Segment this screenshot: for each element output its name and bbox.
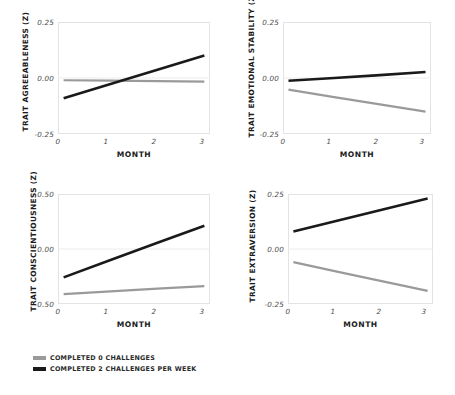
- y-tick-label: 0.00: [16, 74, 54, 83]
- y-tick-label: 0.00: [246, 245, 284, 254]
- legend: COMPLETED 0 CHALLENGES COMPLETED 2 CHALL…: [33, 353, 273, 375]
- y-tick-label: 0.25: [241, 18, 279, 27]
- x-tick-label: 0: [50, 307, 66, 316]
- y-tick-label: 0.25: [246, 190, 284, 199]
- legend-item: COMPLETED 0 CHALLENGES: [33, 353, 273, 363]
- x-axis-title-emotional-stability: MONTH: [283, 150, 431, 159]
- x-axis-title-extraversion: MONTH: [288, 320, 433, 329]
- x-tick-label: 3: [416, 307, 432, 316]
- legend-label: COMPLETED 2 CHALLENGES PER WEEK: [50, 365, 197, 373]
- subplot-agreeableness: [58, 22, 210, 134]
- y-tick-label: -0.25: [14, 130, 54, 139]
- plot-area-agreeableness: [58, 22, 210, 134]
- data-line: [64, 80, 205, 81]
- figure-panel-grid: TRAIT AGREEABLENESS (Z) MONTH 0.25 0.00 …: [0, 0, 455, 395]
- subplot-emotional-stability: [283, 22, 431, 134]
- legend-item: COMPLETED 2 CHALLENGES PER WEEK: [33, 364, 273, 374]
- legend-label: COMPLETED 0 CHALLENGES: [50, 354, 155, 362]
- x-axis-title-conscientiousness: MONTH: [58, 320, 210, 329]
- y-tick-label: 0.00: [241, 74, 279, 83]
- x-tick-label: 2: [146, 137, 162, 146]
- x-tick-label: 2: [146, 307, 162, 316]
- x-tick-label: 1: [325, 307, 341, 316]
- x-tick-label: 2: [371, 307, 387, 316]
- y-tick-label: 0.50: [16, 190, 54, 199]
- y-tick-label: 0.25: [16, 18, 54, 27]
- x-tick-label: 0: [280, 307, 296, 316]
- x-tick-label: 1: [98, 307, 114, 316]
- plot-area-emotional-stability: [283, 22, 431, 134]
- y-tick-label: -0.25: [244, 300, 284, 309]
- y-tick-label: -0.25: [239, 130, 279, 139]
- x-tick-label: 3: [194, 137, 210, 146]
- x-tick-label: 3: [194, 307, 210, 316]
- y-tick-label: -0.50: [14, 300, 54, 309]
- x-tick-label: 0: [275, 137, 291, 146]
- subplot-extraversion: [288, 194, 433, 304]
- y-tick-label: 0.00: [16, 245, 54, 254]
- legend-swatch-treatment: [33, 367, 46, 370]
- x-tick-label: 0: [50, 137, 66, 146]
- legend-swatch-control: [33, 356, 46, 359]
- x-tick-label: 2: [368, 137, 384, 146]
- x-tick-label: 1: [321, 137, 337, 146]
- plot-area-extraversion: [288, 194, 433, 304]
- subplot-conscientiousness: [58, 194, 210, 304]
- x-tick-label: 3: [414, 137, 430, 146]
- plot-area-conscientiousness: [58, 194, 210, 304]
- x-tick-label: 1: [98, 137, 114, 146]
- x-axis-title-agreeableness: MONTH: [58, 150, 210, 159]
